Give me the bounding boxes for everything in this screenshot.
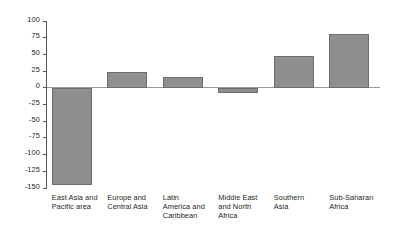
bar [107,72,147,87]
y-axis-tick-label: 25 [32,66,40,74]
bar [274,56,314,87]
y-axis-tick-label: 0 [36,82,40,90]
x-axis-category-label: Sub-Saharan Africa [329,193,391,211]
bar-chart: 1007550250-25-50-75-100-125-150 East Asi… [0,0,400,232]
x-axis-category-label: Europe and Central Asia [107,193,169,211]
y-axis-tick-label: 100 [27,16,40,24]
y-axis-tick-label: -100 [25,149,40,157]
y-axis-tick-label: -50 [29,116,40,124]
bar [329,34,369,88]
bar [218,88,258,93]
y-axis-tick-label: -75 [29,132,40,140]
y-axis-tick-label: -125 [25,166,40,174]
x-axis-category-label: Latin America and Caribbean [163,193,225,220]
bar [163,77,203,88]
y-axis-tick-label: -25 [29,99,40,107]
bar [52,88,92,185]
y-axis-tick-label: -150 [25,183,40,191]
x-axis-category-label: Middle East and North Africa [218,193,280,220]
x-axis-category-label: East Asia and Pacific area [52,193,114,211]
y-axis-tick-label: 75 [32,32,40,40]
x-axis-category-label: Southern Asia [274,193,336,211]
plot-area [47,21,380,188]
y-axis-tick-label: 50 [32,49,40,57]
